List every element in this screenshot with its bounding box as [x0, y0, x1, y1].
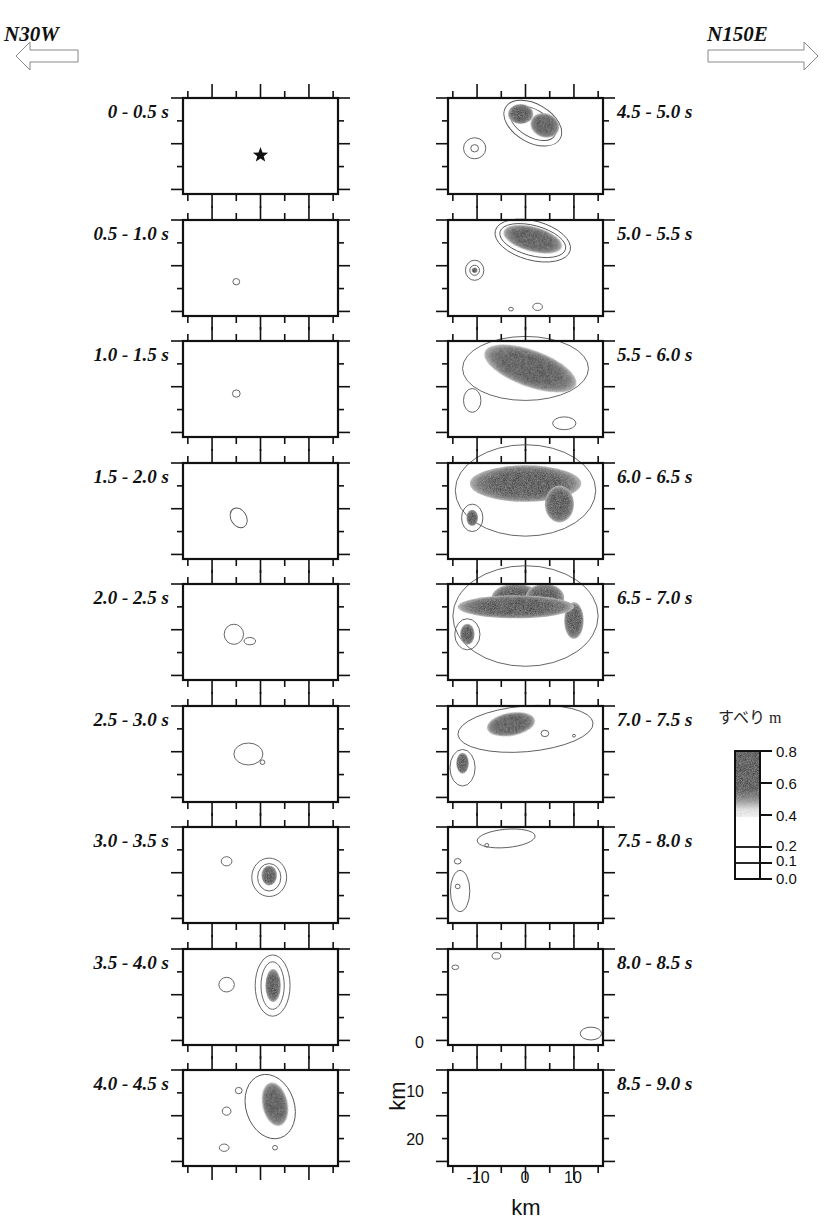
colorbar-tick-0.6: 0.6 [776, 775, 797, 792]
slip-patch [261, 865, 277, 885]
time-window-label: 3.5 - 4.0 s [93, 952, 169, 973]
direction-left: N30W [3, 22, 78, 70]
colorbar: すべり m 0.8 0.6 0.4 0.2 0.1 0.0 [718, 709, 797, 887]
direction-left-label: N30W [3, 22, 60, 46]
snapshot-panel: 5.5 - 6.0 s [436, 327, 692, 451]
y-axis-title: km [385, 1081, 410, 1110]
snapshot-panel: 0.5 - 1.0 s [94, 206, 350, 330]
slip-patch [472, 268, 478, 273]
snapshot-panel: 4.0 - 4.5 s [93, 1056, 350, 1180]
slip-patch [460, 624, 475, 645]
snapshot-panel: 1.5 - 2.0 s [94, 449, 350, 573]
snapshot-panel: 8.0 - 8.5 s [436, 935, 692, 1059]
time-window-label: 8.0 - 8.5 s [617, 952, 692, 973]
slip-patch [508, 104, 533, 124]
colorbar-tick-0.4: 0.4 [776, 807, 797, 824]
direction-right-label: N150E [706, 22, 768, 46]
snapshot-panel: 7.0 - 7.5 s [436, 692, 692, 816]
snapshot-panel: 6.0 - 6.5 s [436, 445, 692, 573]
time-window-label: 7.5 - 8.0 s [617, 830, 692, 851]
x-tick-neg10: -10 [466, 1169, 489, 1186]
x-axis-title: km [511, 1195, 540, 1220]
snapshot-panel: 4.5 - 5.0 s [436, 84, 692, 208]
time-window-label: 5.0 - 5.5 s [617, 223, 692, 244]
snapshot-panel: 2.5 - 3.0 s [93, 692, 350, 816]
colorbar-tick-0.0: 0.0 [776, 870, 797, 887]
slip-patch [456, 753, 469, 774]
slip-patch [458, 595, 574, 618]
snapshot-panel: 0 - 0.5 s [108, 84, 350, 208]
arrow-right-icon [708, 42, 818, 70]
snapshot-panel: 8.5 - 9.0 s [436, 1056, 692, 1180]
arrow-left-icon [16, 42, 78, 70]
time-window-label: 1.0 - 1.5 s [94, 344, 169, 365]
y-tick-0: 0 [415, 1034, 424, 1051]
time-window-label: 6.0 - 6.5 s [617, 466, 692, 487]
time-window-label: 0.5 - 1.0 s [94, 223, 169, 244]
x-tick-10: 10 [564, 1169, 582, 1186]
time-window-label: 8.5 - 9.0 s [617, 1073, 692, 1094]
snapshot-panel: 3.0 - 3.5 s [93, 813, 350, 937]
time-window-label: 2.5 - 3.0 s [93, 709, 169, 730]
time-window-label: 2.0 - 2.5 s [93, 587, 169, 608]
time-window-label: 4.0 - 4.5 s [93, 1073, 169, 1094]
colorbar-tick-0.8: 0.8 [776, 743, 797, 760]
time-window-label: 0 - 0.5 s [108, 101, 169, 122]
time-window-label: 5.5 - 6.0 s [617, 344, 692, 365]
snapshot-panel: 2.0 - 2.5 s [93, 570, 350, 694]
time-window-label: 3.0 - 3.5 s [93, 830, 169, 851]
time-window-label: 1.5 - 2.0 s [94, 466, 169, 487]
x-tick-0: 0 [521, 1169, 530, 1186]
colorbar-tick-0.1: 0.1 [776, 852, 797, 869]
time-window-label: 6.5 - 7.0 s [617, 587, 692, 608]
slip-snapshot-figure: N30W N150E 0 - 0.5 s0.5 - 1.0 s1.0 - 1.5… [0, 0, 832, 1226]
direction-right: N150E [706, 22, 818, 70]
colorbar-title: すべり m [718, 709, 782, 726]
snapshot-panel: 6.5 - 7.0 s [436, 566, 692, 694]
slip-patch [545, 486, 574, 523]
snapshot-panel: 5.0 - 5.5 s [436, 206, 692, 330]
slip-patch [466, 510, 478, 526]
snapshot-panel: 3.5 - 4.0 s [93, 935, 350, 1059]
time-window-label: 4.5 - 5.0 s [616, 101, 692, 122]
snapshot-panel: 7.5 - 8.0 s [436, 813, 692, 937]
slip-patch [265, 969, 281, 1002]
time-window-label: 7.0 - 7.5 s [617, 709, 692, 730]
snapshot-panel: 1.0 - 1.5 s [94, 327, 350, 451]
y-tick-20: 20 [406, 1131, 424, 1148]
